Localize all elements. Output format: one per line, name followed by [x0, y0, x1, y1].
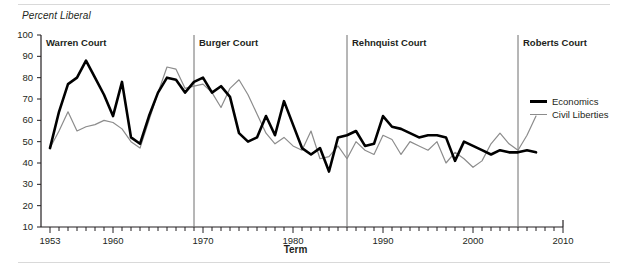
y-tick-label-70: 70 — [11, 93, 33, 104]
legend-item-economics: Economics — [530, 95, 609, 108]
y-tick-label-30: 30 — [11, 178, 33, 189]
y-tick-label-80: 80 — [11, 72, 33, 83]
court-era-label-warren-court: Warren Court — [46, 37, 106, 48]
x-axis-title: Term — [0, 244, 625, 255]
legend-label-economics: Economics — [552, 96, 598, 107]
y-tick-label-40: 40 — [11, 157, 33, 168]
y-tick-label-100: 100 — [11, 29, 33, 40]
figure-container: Percent Liberal 100908070605040302010 19… — [0, 0, 625, 270]
legend-item-civil-liberties: Civil Liberties — [530, 108, 609, 121]
y-tick-label-10: 10 — [11, 221, 33, 232]
court-era-label-burger-court: Burger Court — [199, 37, 258, 48]
legend-swatch-civil-liberties-icon — [530, 114, 547, 115]
y-tick-label-90: 90 — [11, 50, 33, 61]
series-line-economics — [50, 61, 536, 172]
court-era-label-roberts-court: Roberts Court — [523, 37, 587, 48]
y-tick-label-50: 50 — [11, 136, 33, 147]
chart-legend: Economics Civil Liberties — [530, 95, 609, 121]
legend-label-civil-liberties: Civil Liberties — [552, 109, 609, 120]
y-tick-label-60: 60 — [11, 114, 33, 125]
court-era-label-rehnquist-court: Rehnquist Court — [352, 37, 426, 48]
legend-swatch-economics-icon — [530, 100, 547, 103]
x-axis-title-text: Term — [284, 244, 308, 255]
y-tick-label-20: 20 — [11, 200, 33, 211]
